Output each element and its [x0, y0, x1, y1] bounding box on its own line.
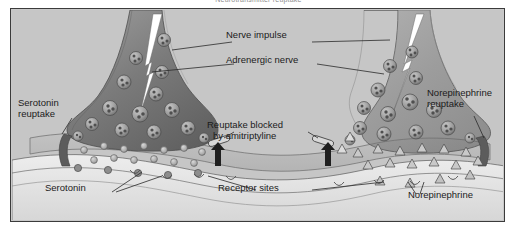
label-reuptake-blocked-line2: by amitriptyline: [213, 131, 276, 142]
label-nerve-impulse: Nerve impulse: [226, 30, 287, 41]
label-serotonin: Serotonin: [45, 183, 86, 194]
illustration-stage: Neurotransmitter reuptake: [0, 0, 517, 232]
label-reuptake-blocked-line1: Reuptake blocked: [207, 120, 283, 131]
label-norepinephrine: Norepinephrine: [408, 190, 473, 201]
figure-title-strip: Neurotransmitter reuptake: [0, 0, 517, 7]
label-serotonin-reuptake-line1: Serotonin: [18, 98, 59, 109]
label-receptor-sites: Receptor sites: [218, 183, 279, 194]
figure-title: Neurotransmitter reuptake: [0, 0, 517, 3]
label-adrenergic-nerve: Adrenergic nerve: [226, 55, 298, 66]
label-serotonin-reuptake-line2: reuptake: [18, 109, 55, 120]
label-norepinephrine-reuptake-line1: Norepinephrine: [427, 88, 492, 99]
label-norepinephrine-reuptake-line2: reuptake: [427, 99, 464, 110]
